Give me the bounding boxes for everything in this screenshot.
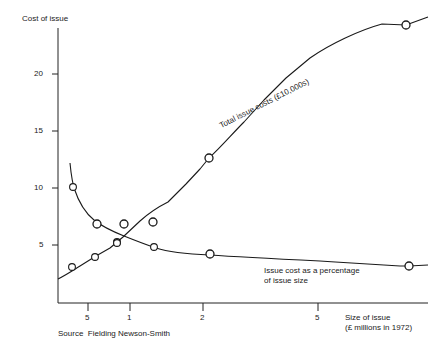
x-tick-label-1: 1 [127,313,131,322]
series-label-issue-cost-percentage-line1: Issue cost as a percentage [264,266,360,276]
chart-canvas [0,0,434,356]
data-point [206,250,214,258]
data-point [93,220,101,228]
x-tick-label-0point5: 5 [85,313,89,322]
x-axis-title: Size of issue [345,313,390,323]
data-point [149,218,157,226]
chart-figure: Cost of issue 20 15 10 5 5 1 2 5 Total i… [0,0,434,356]
x-axis-subtitle: (£ millions in 1972) [345,323,412,333]
data-point [120,220,128,228]
series-issue-cost-percentage-line [70,163,428,266]
data-point [402,21,410,29]
y-axis-ticks [52,74,58,245]
data-point [205,154,213,162]
source-note: Source Fielding Newson-Smith [58,329,170,339]
data-point [69,264,76,271]
series-label-issue-cost-percentage-line2: of issue size [264,276,308,286]
data-point [151,244,158,251]
series-total-issue-costs-markers [69,21,410,270]
series-total-issue-costs-line [58,17,428,279]
data-point [70,184,77,191]
data-point [405,262,413,270]
data-point [92,254,99,261]
data-point [114,240,121,247]
y-axis-title: Cost of issue [22,14,68,24]
x-axis-ticks [88,303,318,311]
y-tick-label-15: 15 [34,126,43,135]
x-tick-label-5: 5 [315,313,319,322]
y-tick-label-20: 20 [34,69,43,78]
y-tick-label-10: 10 [34,183,43,192]
x-tick-label-2: 2 [200,313,204,322]
y-tick-label-5: 5 [39,240,43,249]
